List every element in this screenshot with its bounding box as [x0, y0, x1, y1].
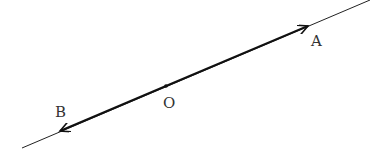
label-A: A — [310, 32, 322, 50]
label-O: O — [163, 94, 175, 112]
vector-diagram: O A B — [0, 0, 385, 159]
point-O-dot — [164, 84, 168, 88]
vector-OB-arrow — [60, 86, 166, 131]
label-B: B — [55, 103, 66, 121]
vector-OA-arrow — [166, 26, 308, 86]
